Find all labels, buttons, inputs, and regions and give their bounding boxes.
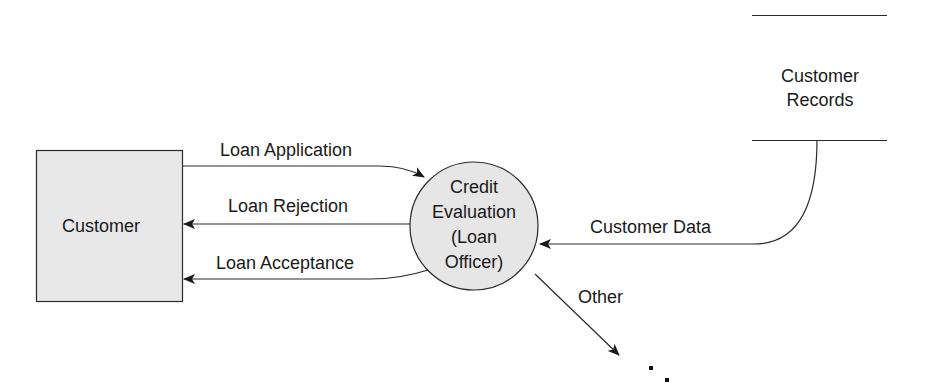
other-label: Other	[578, 287, 623, 307]
customer-data-label: Customer Data	[590, 217, 711, 237]
process-label-line-3: (Loan	[414, 225, 534, 250]
data-store-label: Customer Records	[760, 64, 880, 112]
data-store-label-line-1: Customer	[760, 64, 880, 88]
process-label-line-4: Officer)	[414, 250, 534, 275]
loan-application-label: Loan Application	[220, 140, 352, 160]
data-store-label-line-2: Records	[760, 88, 880, 112]
loan-rejection-label: Loan Rejection	[228, 196, 348, 216]
continuation-dot-1	[649, 366, 653, 370]
customer-entity-label: Customer	[62, 216, 140, 236]
continuation-dot-2	[665, 378, 669, 382]
process-label-line-1: Credit	[414, 175, 534, 200]
process-label: Credit Evaluation (Loan Officer)	[414, 175, 534, 275]
loan-acceptance-label: Loan Acceptance	[216, 253, 354, 273]
process-label-line-2: Evaluation	[414, 200, 534, 225]
loan-application-arrow	[182, 166, 424, 177]
